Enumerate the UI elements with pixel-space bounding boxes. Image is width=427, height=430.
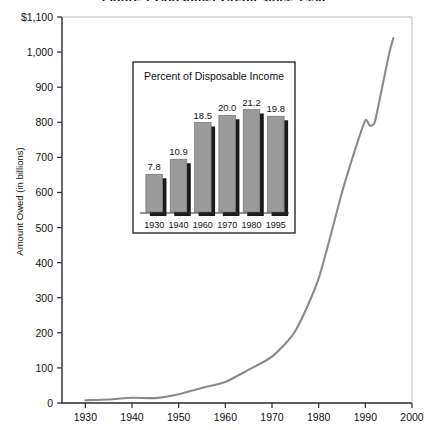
inset-bar-value: 10.9 <box>169 146 188 157</box>
chart-figure: Figure 1 Consumer Credit since 1930 Amou… <box>0 0 427 430</box>
inset-bar-value: 7.8 <box>148 161 161 172</box>
x-tick-label: 1970 <box>260 411 284 423</box>
x-tick-label: 1930 <box>74 411 98 423</box>
inset-bar-category: 1940 <box>168 220 188 230</box>
inset-bar-value: 21.2 <box>242 97 261 108</box>
chart-plot-area: $1,1001,0009008007006005004003002001000 … <box>0 0 427 430</box>
y-tick-label: 900 <box>35 81 53 93</box>
inset-bar <box>195 123 212 212</box>
y-tick-label: 600 <box>35 186 53 198</box>
y-tick-label: 1,000 <box>27 46 53 58</box>
y-tick-label: 400 <box>35 257 53 269</box>
x-tick-label: 2000 <box>400 411 424 423</box>
inset-bar-category: 1995 <box>266 220 286 230</box>
x-tick-label: 1980 <box>307 411 331 423</box>
y-axis-ticks: $1,1001,0009008007006005004003002001000 <box>21 11 62 409</box>
x-axis-ticks: 19301940195019601970198019902000 <box>74 403 424 423</box>
y-tick-label: 200 <box>35 327 53 339</box>
x-tick-label: 1990 <box>354 411 378 423</box>
inset-bar-chart: Percent of Disposable Income 7.8193010.9… <box>133 62 295 233</box>
inset-bar-category: 1960 <box>193 220 213 230</box>
inset-bar <box>219 115 236 212</box>
x-tick-label: 1960 <box>214 411 238 423</box>
inset-bar <box>243 110 260 212</box>
inset-bar-category: 1980 <box>241 220 261 230</box>
inset-bar <box>146 174 163 212</box>
y-tick-label: 700 <box>35 151 53 163</box>
x-tick-label: 1940 <box>120 411 144 423</box>
y-tick-label: 100 <box>35 362 53 374</box>
inset-bar-value: 18.5 <box>194 110 213 121</box>
inset-bar-value: 20.0 <box>218 102 237 113</box>
y-tick-label: 300 <box>35 292 53 304</box>
y-tick-label: 0 <box>47 397 53 409</box>
inset-title: Percent of Disposable Income <box>144 70 284 82</box>
y-tick-label: 500 <box>35 222 53 234</box>
inset-bar <box>170 159 187 212</box>
y-tick-label: $1,100 <box>21 11 53 23</box>
inset-bar-category: 1930 <box>144 220 164 230</box>
inset-bar-value: 19.8 <box>267 103 286 114</box>
inset-bar <box>268 116 285 212</box>
x-tick-label: 1950 <box>167 411 191 423</box>
inset-bar-category: 1970 <box>217 220 237 230</box>
y-tick-label: 800 <box>35 116 53 128</box>
